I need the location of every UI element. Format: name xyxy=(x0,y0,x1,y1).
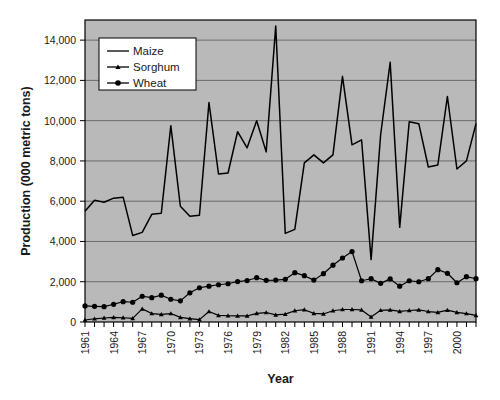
data-point-marker xyxy=(454,280,459,285)
data-point-marker xyxy=(340,255,345,260)
y-tick-label: 14,000 xyxy=(44,34,76,46)
x-tick-label: 1964 xyxy=(108,331,120,355)
x-tick-label: 1991 xyxy=(365,331,377,355)
x-tick-label: 2000 xyxy=(451,331,463,355)
data-point-marker xyxy=(321,271,326,276)
x-axis-title: Year xyxy=(267,372,294,386)
legend-label: Wheat xyxy=(133,77,167,89)
data-point-marker xyxy=(121,299,126,304)
x-tick-label: 1961 xyxy=(79,331,91,355)
data-point-marker xyxy=(216,282,221,287)
data-point-marker xyxy=(368,276,373,281)
data-point-marker xyxy=(435,267,440,272)
data-point-marker xyxy=(149,295,154,300)
data-point-marker xyxy=(407,278,412,283)
chart-legend: MaizeSorghumWheat xyxy=(99,38,196,90)
y-tick-label: 4,000 xyxy=(50,235,76,247)
production-line-chart: 02,0004,0006,0008,00010,00012,00014,000 … xyxy=(0,0,500,400)
data-point-marker xyxy=(416,279,421,284)
y-tick-label: 8,000 xyxy=(50,155,76,167)
data-point-marker xyxy=(187,290,192,295)
data-point-marker xyxy=(349,249,354,254)
x-tick-label: 1973 xyxy=(193,331,205,355)
x-tick-label: 1988 xyxy=(336,331,348,355)
data-point-marker xyxy=(273,278,278,283)
x-tick-label: 1970 xyxy=(165,331,177,355)
legend-marker-circle-icon xyxy=(115,80,121,86)
x-tick-label: 1985 xyxy=(308,331,320,355)
data-point-marker xyxy=(283,277,288,282)
data-point-marker xyxy=(330,263,335,268)
data-point-marker xyxy=(225,281,230,286)
data-point-marker xyxy=(178,298,183,303)
data-point-marker xyxy=(388,276,393,281)
x-tick-label: 1979 xyxy=(251,331,263,355)
x-tick-label: 1994 xyxy=(394,331,406,355)
data-point-marker xyxy=(292,270,297,275)
data-point-marker xyxy=(311,278,316,283)
y-tick-label: 12,000 xyxy=(44,74,76,86)
x-tick-label: 1982 xyxy=(279,331,291,355)
y-tick-label: 0 xyxy=(70,316,76,328)
data-point-marker xyxy=(359,278,364,283)
data-point-marker xyxy=(245,278,250,283)
data-point-marker xyxy=(264,278,269,283)
data-point-marker xyxy=(140,294,145,299)
data-point-marker xyxy=(235,279,240,284)
data-point-marker xyxy=(426,276,431,281)
data-point-marker xyxy=(197,285,202,290)
y-axis-title: Production (000 metric tons) xyxy=(19,86,33,255)
data-point-marker xyxy=(302,273,307,278)
x-tick-label: 1997 xyxy=(422,331,434,355)
data-point-marker xyxy=(101,304,106,309)
data-point-marker xyxy=(378,281,383,286)
data-point-marker xyxy=(111,302,116,307)
x-tick-label: 1967 xyxy=(136,331,148,355)
data-point-marker xyxy=(397,284,402,289)
data-point-marker xyxy=(92,304,97,309)
legend-label: Sorghum xyxy=(133,61,180,73)
y-tick-label: 10,000 xyxy=(44,115,76,127)
chart-canvas: 02,0004,0006,0008,00010,00012,00014,000 … xyxy=(0,0,500,400)
data-point-marker xyxy=(168,297,173,302)
data-point-marker xyxy=(206,284,211,289)
data-point-marker xyxy=(445,271,450,276)
x-tick-label: 1976 xyxy=(222,331,234,355)
data-point-marker xyxy=(464,274,469,279)
data-point-marker xyxy=(159,293,164,298)
legend-label: Maize xyxy=(133,45,164,57)
data-point-marker xyxy=(254,275,259,280)
y-tick-label: 2,000 xyxy=(50,276,76,288)
data-point-marker xyxy=(130,300,135,305)
y-tick-label: 6,000 xyxy=(50,195,76,207)
